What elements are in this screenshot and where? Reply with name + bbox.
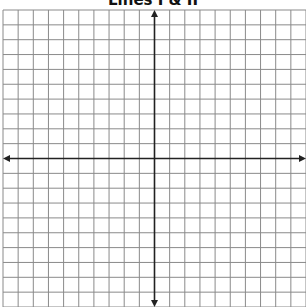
arrow-right-icon — [299, 155, 306, 162]
coordinate-grid — [0, 0, 306, 307]
arrow-up-icon — [151, 10, 158, 17]
arrow-left-icon — [3, 155, 10, 162]
arrow-down-icon — [151, 300, 158, 307]
